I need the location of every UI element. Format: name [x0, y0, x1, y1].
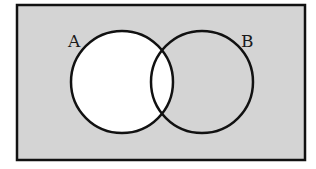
venn-diagram: A B [0, 0, 316, 169]
set-b-label: B [241, 31, 254, 51]
set-a-label: A [67, 31, 81, 51]
